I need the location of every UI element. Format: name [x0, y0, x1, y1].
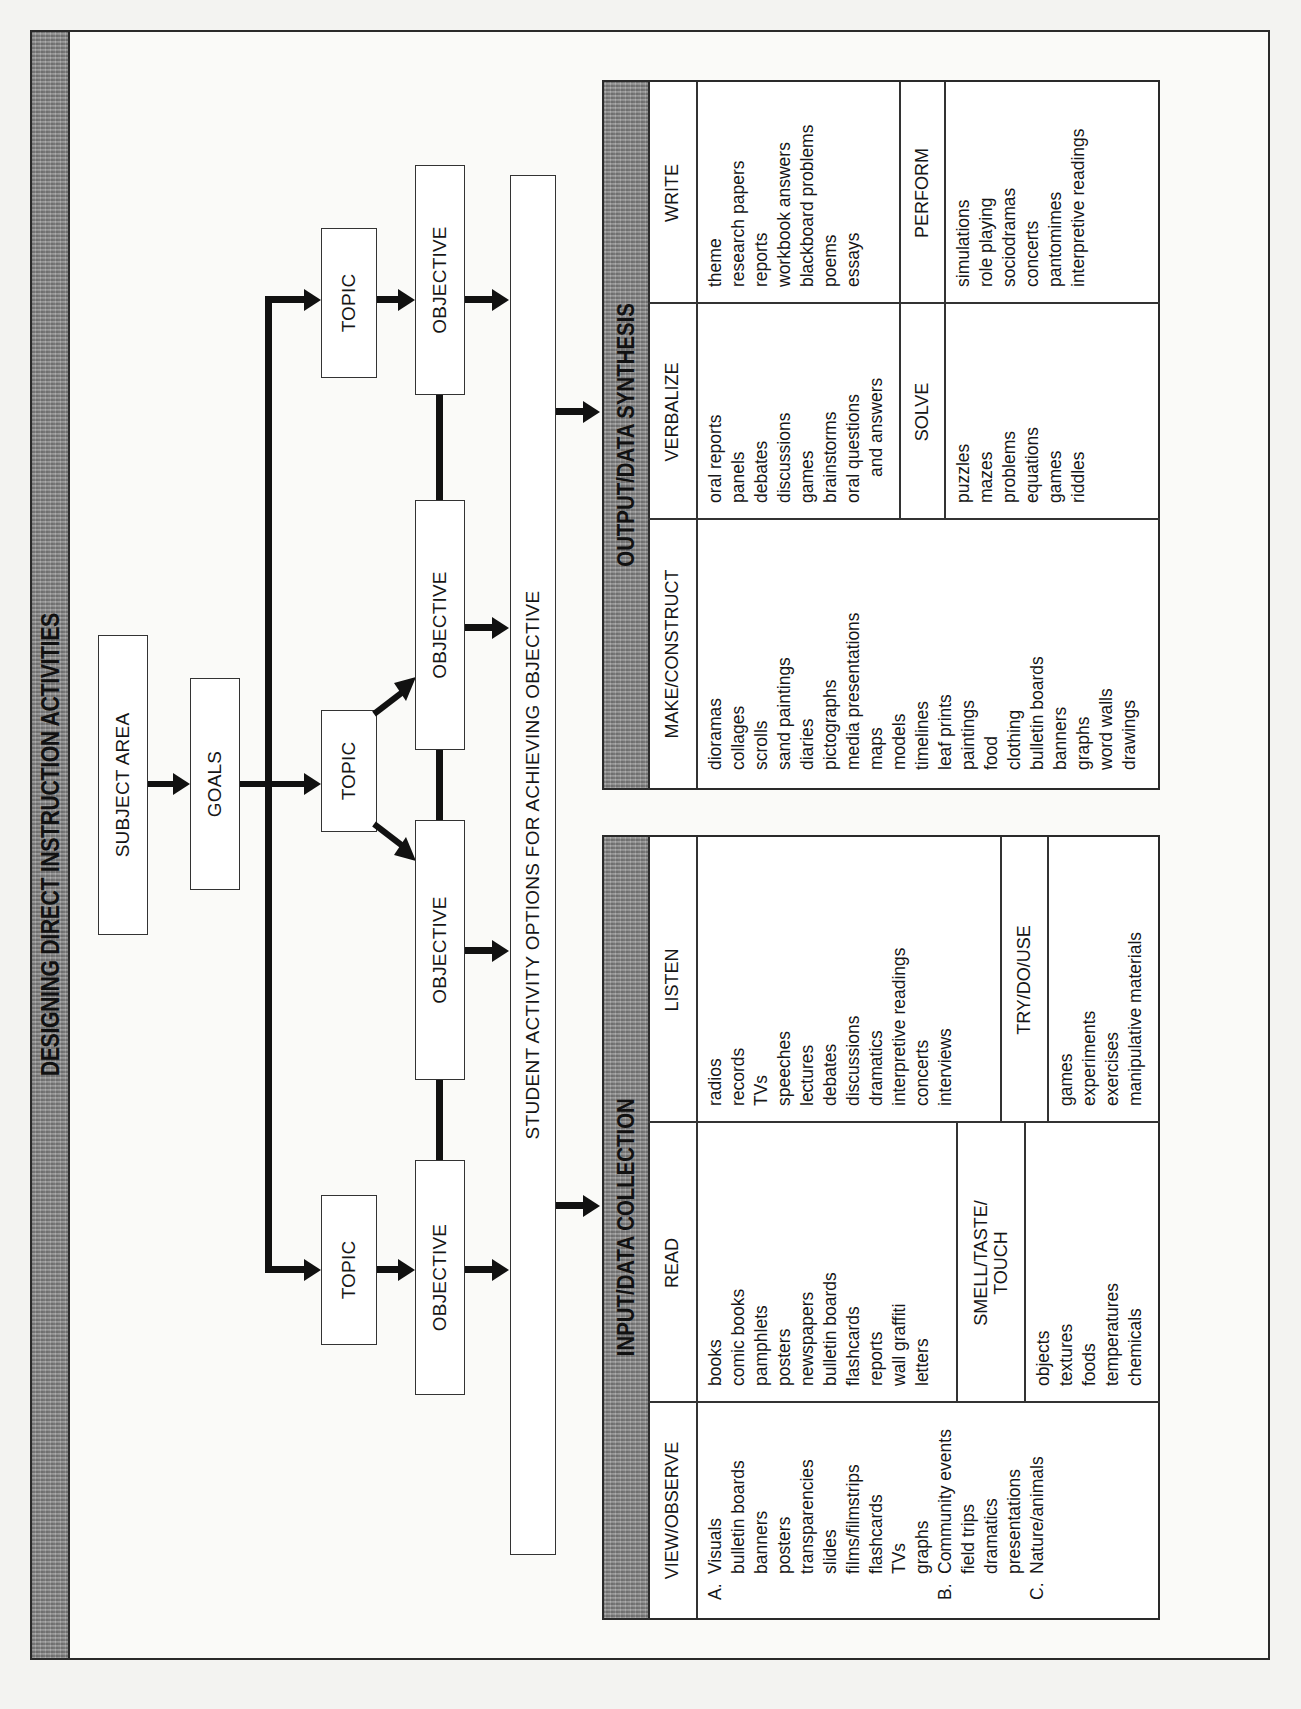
list-item: discussions — [773, 307, 796, 503]
list-item: speeches — [773, 838, 796, 1106]
column-heading: WRITE — [662, 164, 682, 222]
make-construct-heading: MAKE/CONSTRUCT — [648, 520, 696, 788]
list-item: oral questions — [842, 307, 865, 503]
arrow-down-icon — [492, 940, 509, 962]
column-heading: VERBALIZE — [662, 362, 682, 461]
list-item: clothing — [1003, 522, 1026, 770]
list-item: concerts — [911, 838, 934, 1106]
objective-link — [436, 1080, 443, 1160]
list-item: debates — [750, 307, 773, 503]
row-divider — [1024, 1123, 1026, 1403]
list-item: theme — [704, 83, 727, 287]
list-item: presentations — [1003, 1405, 1026, 1600]
list-item: graphs — [1072, 522, 1095, 770]
arrow-shaft — [148, 781, 174, 787]
arrow-shaft — [377, 296, 399, 303]
write-heading: WRITE — [648, 82, 696, 304]
column-heading: TRY/DO/USE — [1014, 925, 1034, 1035]
listen-list: radios records TVs speeches lectures deb… — [704, 838, 957, 1106]
list-item: leaf prints — [934, 522, 957, 770]
list-item: pantomimes — [1044, 83, 1067, 287]
list-item: lectures — [796, 838, 819, 1106]
list-item: chemicals — [1124, 1126, 1147, 1386]
list-item: word walls — [1095, 522, 1118, 770]
column-heading: LISTEN — [662, 948, 682, 1011]
title-banner: DESIGNING DIRECT INSTRUCTION ACTIVITIES — [30, 30, 70, 1660]
list-item: manipulative materials — [1124, 838, 1147, 1106]
column-heading: MAKE/CONSTRUCT — [662, 570, 682, 739]
list-item: oral reports — [704, 307, 727, 503]
solve-heading: SOLVE — [900, 304, 944, 520]
connector-line — [265, 1266, 305, 1273]
list-item: concerts — [1021, 83, 1044, 287]
arrow-down-icon — [304, 773, 321, 795]
list-item: comic books — [727, 1126, 750, 1386]
list-item: pictographs — [819, 522, 842, 770]
list-item: field trips — [957, 1405, 980, 1600]
column-divider — [648, 1402, 1160, 1404]
arrow-down-icon — [304, 1259, 321, 1281]
objective-label: OBJECTIVE — [429, 226, 451, 333]
view-observe-heading: VIEW/OBSERVE — [648, 1403, 696, 1618]
list-item: TVs — [888, 1405, 911, 1600]
list-item: mazes — [975, 307, 998, 503]
row-divider — [696, 837, 698, 1618]
arrow-shaft — [556, 1202, 584, 1209]
list-item: simulations — [952, 83, 975, 287]
list-item: interpretive readings — [888, 838, 911, 1106]
list-item: models — [888, 522, 911, 770]
output-data-synthesis-table: OUTPUT/DATA SYNTHESIS MAKE/CONSTRUCT dio… — [602, 80, 1160, 790]
arrow-shaft — [556, 408, 584, 415]
arrow-down-icon — [492, 289, 509, 311]
list-item: timelines — [911, 522, 934, 770]
arrow-shaft — [465, 1266, 493, 1273]
subject-area-label: SUBJECT AREA — [112, 713, 134, 858]
list-item: bulletin boards — [819, 1126, 842, 1386]
list-item: puzzles — [952, 307, 975, 503]
list-item: posters — [773, 1126, 796, 1386]
list-item: games — [1055, 838, 1078, 1106]
list-item: bulletin boards — [1026, 522, 1049, 770]
list-group-label: A.Visuals — [704, 1405, 727, 1600]
objective-box-3: OBJECTIVE — [415, 500, 465, 750]
list-item: banners — [750, 1405, 773, 1600]
arrow-down-icon — [492, 617, 509, 639]
list-group-label: B.Community events — [934, 1405, 957, 1600]
column-divider — [648, 1122, 1160, 1124]
list-item: research papers — [727, 83, 750, 287]
list-item: transparencies — [796, 1405, 819, 1600]
list-item: games — [796, 307, 819, 503]
list-item: collages — [727, 522, 750, 770]
arrow-shaft — [377, 1266, 399, 1273]
list-item: bulletin boards — [727, 1405, 750, 1600]
list-item: wall graffiti — [888, 1126, 911, 1386]
list-item: diaries — [796, 522, 819, 770]
list-item: books — [704, 1126, 727, 1386]
topic-box-2: TOPIC — [321, 710, 377, 832]
smell-taste-touch-heading: SMELL/TASTE/ TOUCH — [957, 1123, 1024, 1403]
row-divider — [1047, 837, 1049, 1123]
verbalize-list: oral reports panels debates discussions … — [704, 307, 888, 503]
page-title: DESIGNING DIRECT INSTRUCTION ACTIVITIES — [35, 614, 66, 1077]
list-item: dramatics — [865, 838, 888, 1106]
list-item: food — [980, 522, 1003, 770]
view-observe-list: A.Visuals bulletin boards banners poster… — [704, 1405, 1049, 1600]
solve-list: puzzles mazes problems equations games r… — [952, 307, 1090, 503]
list-item: and answers — [865, 307, 888, 503]
arrow-down-icon — [173, 773, 190, 795]
list-item: graphs — [911, 1405, 934, 1600]
list-item: riddles — [1067, 307, 1090, 503]
perform-heading: PERFORM — [900, 82, 944, 304]
arrow-down-icon — [398, 1259, 415, 1281]
input-data-collection-table: INPUT/DATA COLLECTION VIEW/OBSERVE A.Vis… — [602, 835, 1160, 1620]
list-item: blackboard problems — [796, 83, 819, 287]
column-heading: VIEW/OBSERVE — [662, 1442, 682, 1580]
list-item: media presentations — [842, 522, 865, 770]
arrow-shaft — [465, 296, 493, 303]
list-item: interviews — [934, 838, 957, 1106]
list-item: problems — [998, 307, 1021, 503]
list-item: records — [727, 838, 750, 1106]
list-item: radios — [704, 838, 727, 1106]
list-item: games — [1044, 307, 1067, 503]
activity-options-label: STUDENT ACTIVITY OPTIONS FOR ACHIEVING O… — [522, 591, 544, 1140]
